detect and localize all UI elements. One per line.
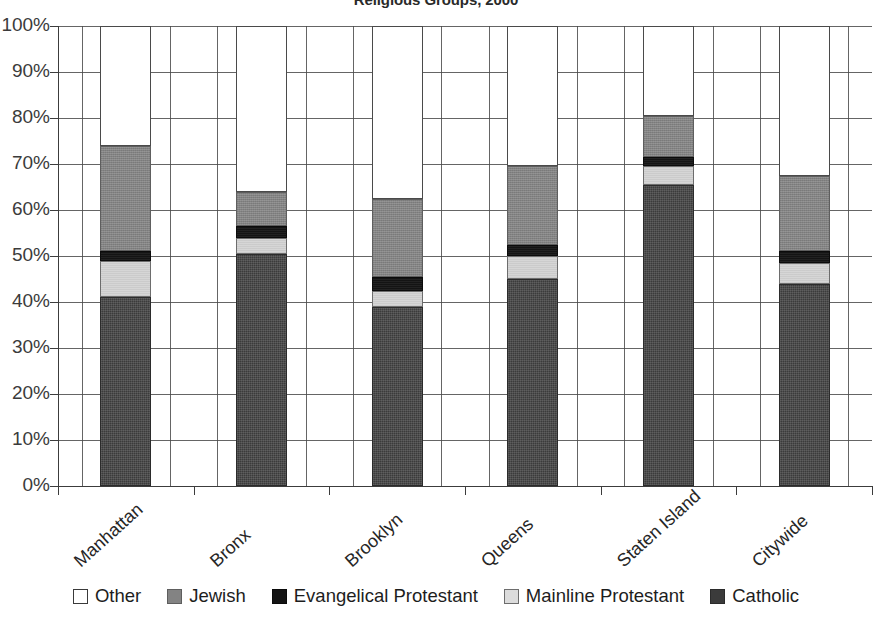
y-axis-tick-mark <box>50 118 58 119</box>
bar-segment-other[interactable] <box>372 26 423 199</box>
y-axis-tick-mark <box>50 210 58 211</box>
gridline-vertical <box>306 26 307 486</box>
y-axis-tick-mark <box>50 72 58 73</box>
x-axis-tick-mark <box>601 486 602 495</box>
gridline-vertical <box>441 26 442 486</box>
x-axis-label-bronx: Bronx <box>206 525 255 572</box>
y-axis-tick-mark <box>50 394 58 395</box>
legend-swatch-icon <box>710 589 725 604</box>
x-axis-tick-mark <box>329 486 330 495</box>
legend-item-label: Evangelical Protestant <box>294 585 478 607</box>
chart-title: Religious Groups, 2000 <box>0 0 872 8</box>
x-axis-tick-mark <box>194 486 195 495</box>
bar-segment-evangelical-protestant[interactable] <box>643 157 694 166</box>
legend-item-other[interactable]: Other <box>73 585 141 607</box>
bar-segment-evangelical-protestant[interactable] <box>100 251 151 260</box>
bar-bronx[interactable] <box>236 26 287 486</box>
y-axis-tick-label: 90% <box>0 60 50 82</box>
y-axis-tick-label: 70% <box>0 152 50 174</box>
legend-item-catholic[interactable]: Catholic <box>710 585 799 607</box>
gridline-horizontal <box>58 348 872 349</box>
legend-item-label: Mainline Protestant <box>526 585 684 607</box>
bar-segment-mainline-protestant[interactable] <box>100 261 151 298</box>
bar-citywide[interactable] <box>779 26 830 486</box>
bar-segment-evangelical-protestant[interactable] <box>372 277 423 291</box>
y-axis-tick-label: 60% <box>0 198 50 220</box>
x-axis-line <box>50 486 872 487</box>
legend-item-label: Jewish <box>189 585 246 607</box>
y-axis-tick-label: 10% <box>0 428 50 450</box>
bar-segment-catholic[interactable] <box>643 185 694 486</box>
gridline-vertical <box>489 26 490 486</box>
y-axis-tick-label: 50% <box>0 244 50 266</box>
bar-segment-jewish[interactable] <box>779 176 830 252</box>
bar-segment-other[interactable] <box>779 26 830 176</box>
bar-segment-catholic[interactable] <box>507 279 558 486</box>
bar-queens[interactable] <box>507 26 558 486</box>
bar-segment-other[interactable] <box>507 26 558 166</box>
bar-segment-mainline-protestant[interactable] <box>507 256 558 279</box>
plot-area: 100%90%80%70%60%50%40%30%20%10%0% <box>58 26 872 486</box>
y-axis-tick-mark <box>50 164 58 165</box>
gridline-horizontal <box>58 256 872 257</box>
legend-item-jewish[interactable]: Jewish <box>167 585 246 607</box>
bar-segment-catholic[interactable] <box>779 284 830 486</box>
gridline-horizontal <box>58 72 872 73</box>
gridline-vertical <box>577 26 578 486</box>
legend-item-mainline-protestant[interactable]: Mainline Protestant <box>504 585 684 607</box>
bar-staten-island[interactable] <box>643 26 694 486</box>
bar-segment-mainline-protestant[interactable] <box>236 238 287 254</box>
y-axis-tick-label: 100% <box>0 14 50 36</box>
bar-segment-other[interactable] <box>236 26 287 192</box>
gridline-vertical <box>353 26 354 486</box>
y-axis-tick-mark <box>50 302 58 303</box>
x-axis-label-queens: Queens <box>477 514 538 572</box>
gridline-horizontal <box>58 118 872 119</box>
gridline-vertical <box>82 26 83 486</box>
legend-item-label: Other <box>95 585 141 607</box>
legend-item-evangelical-protestant[interactable]: Evangelical Protestant <box>272 585 478 607</box>
gridline-vertical <box>624 26 625 486</box>
bar-segment-mainline-protestant[interactable] <box>643 166 694 184</box>
gridline-horizontal <box>58 26 872 27</box>
gridline-vertical <box>170 26 171 486</box>
y-axis-tick-label: 40% <box>0 290 50 312</box>
y-axis-tick-label: 30% <box>0 336 50 358</box>
legend-item-label: Catholic <box>732 585 799 607</box>
x-axis-label-staten-island: Staten Island <box>613 486 705 572</box>
bar-segment-evangelical-protestant[interactable] <box>236 226 287 238</box>
bar-segment-mainline-protestant[interactable] <box>372 291 423 307</box>
y-axis-tick-mark <box>50 348 58 349</box>
gridline-vertical <box>217 26 218 486</box>
legend-swatch-icon <box>73 589 88 604</box>
legend-swatch-icon <box>504 589 519 604</box>
x-axis-tick-mark <box>465 486 466 495</box>
bar-segment-evangelical-protestant[interactable] <box>779 251 830 263</box>
bar-segment-other[interactable] <box>100 26 151 146</box>
bar-segment-jewish[interactable] <box>100 146 151 252</box>
legend-swatch-icon <box>272 589 287 604</box>
y-axis-tick-label: 80% <box>0 106 50 128</box>
bar-segment-jewish[interactable] <box>236 192 287 227</box>
bar-segment-jewish[interactable] <box>507 166 558 244</box>
gridline-horizontal <box>58 440 872 441</box>
bar-segment-catholic[interactable] <box>100 297 151 486</box>
x-axis-label-brooklyn: Brooklyn <box>341 509 407 571</box>
bar-segment-evangelical-protestant[interactable] <box>507 245 558 257</box>
bar-manhattan[interactable] <box>100 26 151 486</box>
bar-segment-catholic[interactable] <box>372 307 423 486</box>
bar-segment-jewish[interactable] <box>372 199 423 277</box>
gridline-horizontal <box>58 164 872 165</box>
y-axis-tick-label: 20% <box>0 382 50 404</box>
bar-brooklyn[interactable] <box>372 26 423 486</box>
y-axis-tick-mark <box>50 256 58 257</box>
bar-segment-catholic[interactable] <box>236 254 287 486</box>
bar-segment-mainline-protestant[interactable] <box>779 263 830 284</box>
bar-segment-jewish[interactable] <box>643 116 694 157</box>
legend-swatch-icon <box>167 589 182 604</box>
x-axis-label-manhattan: Manhattan <box>70 499 147 572</box>
gridline-vertical <box>848 26 849 486</box>
bar-segment-other[interactable] <box>643 26 694 116</box>
x-axis-tick-mark <box>58 486 59 495</box>
x-axis-tick-mark <box>736 486 737 495</box>
